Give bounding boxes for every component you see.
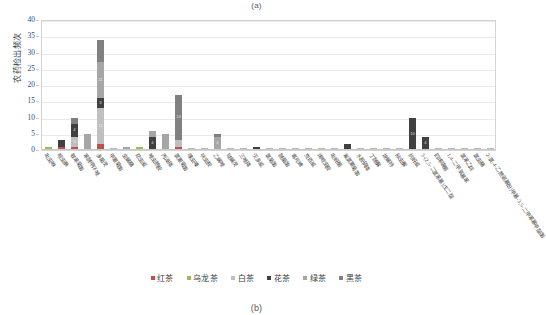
bar-segment[interactable] bbox=[71, 118, 78, 125]
y-tick-label: 35 bbox=[28, 33, 36, 41]
bar-segment[interactable] bbox=[97, 40, 104, 63]
bar-segment[interactable] bbox=[149, 131, 156, 138]
x-tick-label: 茚虫威 bbox=[134, 152, 148, 168]
y-tick-mark bbox=[36, 118, 39, 119]
x-tick-label: 2-氯-4-乙酰氨基酚)甲基-3,5-二甲苯基甲酸酯 bbox=[485, 152, 546, 239]
legend-swatch-icon bbox=[303, 276, 307, 280]
bar-segment-value: 11 bbox=[98, 78, 102, 82]
legend-label: 绿茶 bbox=[310, 272, 327, 283]
x-tick-label: 抗蚜威 bbox=[407, 152, 421, 168]
legend-label: 黑茶 bbox=[346, 272, 363, 283]
y-tick-mark bbox=[36, 134, 39, 135]
bar-segment-value: 10 bbox=[410, 132, 415, 136]
x-axis-labels: 吡虫啉啶虫脒联苯菊酯苯醚甲环唑多菌灵甲氰菊酯虫螨腈茚虫威唑虫酰胺丙溴磷氯氰菊酯噻… bbox=[41, 152, 496, 252]
y-tick-mark bbox=[36, 36, 39, 37]
bar-segment[interactable] bbox=[84, 134, 91, 150]
bar-segment-value: 4 bbox=[151, 141, 153, 145]
y-tick-label: 30 bbox=[28, 49, 36, 57]
legend-item[interactable]: 绿茶 bbox=[303, 272, 326, 283]
legend-item[interactable]: 白茶 bbox=[231, 272, 254, 283]
chart-legend: 红茶乌龙茶白茶花茶绿茶黑茶 bbox=[0, 272, 513, 283]
bar-stack[interactable]: 10 bbox=[409, 118, 416, 151]
bar-segment[interactable]: 4 bbox=[71, 124, 78, 137]
bar-segment-value: 4 bbox=[424, 141, 426, 145]
bar-stack[interactable] bbox=[162, 134, 169, 150]
x-tick-label: 除虫脲 bbox=[394, 152, 408, 168]
x-axis-line bbox=[42, 149, 495, 150]
y-tick-label: 25 bbox=[28, 65, 36, 73]
bar-stack[interactable]: 4 bbox=[214, 134, 221, 150]
legend-swatch-icon bbox=[187, 276, 191, 280]
x-tick-label: 醚菌酯 bbox=[277, 152, 291, 168]
legend-label: 花茶 bbox=[274, 272, 291, 283]
y-tick-mark bbox=[36, 53, 39, 54]
bar-stack[interactable]: 11311 bbox=[97, 40, 104, 151]
bar-segment-value: 3 bbox=[73, 140, 75, 144]
legend-item[interactable]: 红茶 bbox=[151, 272, 174, 283]
x-tick-label: 乙螨唑 bbox=[212, 152, 226, 168]
panel-label-b: (b) bbox=[0, 303, 513, 313]
x-tick-label: 三唑磷 bbox=[238, 152, 252, 168]
bar-stack[interactable]: 34 bbox=[71, 118, 78, 151]
bar-segment[interactable]: 10 bbox=[409, 118, 416, 151]
y-tick-label: 10 bbox=[28, 114, 36, 122]
y-tick-label: 15 bbox=[28, 98, 36, 106]
bar-segment[interactable]: 11 bbox=[97, 108, 104, 144]
legend-label: 红茶 bbox=[157, 272, 174, 283]
legend-swatch-icon bbox=[339, 276, 343, 280]
x-tick-label: 灭多威 bbox=[251, 152, 265, 168]
x-tick-label: 哒螨灵 bbox=[225, 152, 239, 168]
y-tick-mark bbox=[36, 101, 39, 102]
y-tick-mark bbox=[36, 150, 39, 151]
bar-segment-value: 3 bbox=[99, 101, 101, 105]
y-tick-label: 40 bbox=[28, 16, 36, 24]
bar-segment[interactable] bbox=[214, 134, 221, 137]
legend-item[interactable]: 乌龙茶 bbox=[187, 272, 218, 283]
legend-item[interactable]: 花茶 bbox=[267, 272, 290, 283]
legend-label: 乌龙茶 bbox=[193, 272, 218, 283]
bar-segment[interactable]: 3 bbox=[71, 137, 78, 147]
bar-stack[interactable]: 4 bbox=[149, 131, 156, 151]
bar-segment[interactable] bbox=[162, 134, 169, 150]
x-tick-label: 啶虫脒 bbox=[56, 152, 70, 168]
plot-area: 34113114144104 bbox=[41, 20, 496, 151]
bar-segment-value: 4 bbox=[73, 128, 75, 132]
x-tick-label: 氯菊酯 bbox=[264, 152, 278, 168]
y-tick-mark bbox=[36, 85, 39, 86]
legend-item[interactable]: 黑茶 bbox=[339, 272, 362, 283]
bar-segment[interactable] bbox=[175, 140, 182, 147]
bar-segment-value: 4 bbox=[216, 141, 218, 145]
x-tick-label: 克百威 bbox=[303, 152, 317, 168]
legend-label: 白茶 bbox=[238, 272, 255, 283]
legend-swatch-icon bbox=[151, 276, 155, 280]
bar-segment[interactable]: 3 bbox=[97, 98, 104, 108]
x-tick-label: 毒死蜱 bbox=[290, 152, 304, 168]
bar-segment[interactable]: 14 bbox=[175, 95, 182, 141]
legend-swatch-icon bbox=[267, 276, 271, 280]
y-axis-ticks: 0510152025303540 bbox=[0, 20, 39, 151]
bar-series-group: 34113114144104 bbox=[42, 21, 495, 150]
bar-stack[interactable]: 14 bbox=[175, 95, 182, 150]
x-tick-label: 炔螨特 bbox=[381, 152, 395, 168]
y-tick-mark bbox=[36, 20, 39, 21]
x-tick-label: 呋虫胺 bbox=[199, 152, 213, 168]
y-tick-label: 5 bbox=[31, 130, 35, 138]
y-tick-label: 20 bbox=[28, 81, 36, 89]
bar-segment-value: 14 bbox=[176, 115, 181, 119]
y-tick-label: 0 bbox=[31, 146, 35, 154]
bar-segment[interactable]: 11 bbox=[97, 62, 104, 98]
x-tick-label: 吡虫啉 bbox=[43, 152, 57, 168]
y-tick-mark bbox=[36, 69, 39, 70]
bar-stack[interactable] bbox=[84, 134, 91, 150]
bar-segment-value: 11 bbox=[98, 124, 102, 128]
legend-swatch-icon bbox=[231, 276, 235, 280]
bar-segment[interactable] bbox=[58, 140, 65, 147]
panel-label-a: (a) bbox=[0, 1, 513, 10]
